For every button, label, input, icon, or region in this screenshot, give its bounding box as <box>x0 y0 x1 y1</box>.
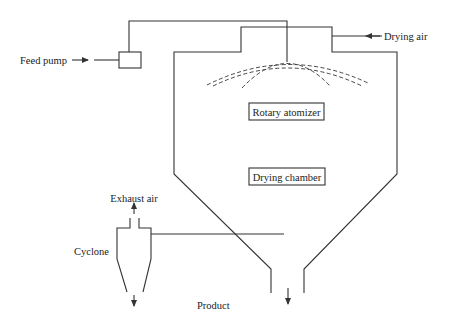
drying-chamber-label: Drying chamber <box>253 172 322 183</box>
cyclone-label: Cyclone <box>74 246 109 257</box>
drying-air-label: Drying air <box>384 31 428 42</box>
drying-chamber-outline <box>174 27 397 293</box>
feed-pump-box <box>119 52 141 68</box>
spray-arc-outer-2 <box>213 68 362 86</box>
cyclone-right-wall <box>139 218 151 292</box>
spray-arc-outer <box>207 64 368 85</box>
exhaust-air-label: Exhaust air <box>110 193 158 204</box>
cyclone-left-wall <box>117 218 130 292</box>
product-label: Product <box>197 300 230 311</box>
rotary-atomizer-label: Rotary atomizer <box>253 107 321 118</box>
spray-dryer-diagram: Feed pump Drying air Rotary atomizer Dry… <box>0 0 449 326</box>
feed-pump-label: Feed pump <box>20 55 67 66</box>
